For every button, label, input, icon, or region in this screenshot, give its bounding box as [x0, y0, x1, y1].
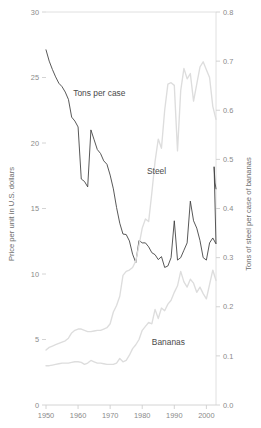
right-tick-label: 0.4	[223, 204, 233, 213]
right-tick-label: 0.0	[223, 401, 233, 410]
right-tick-label: 0.1	[223, 352, 233, 361]
series-label-steel: Steel	[147, 166, 166, 176]
right-tick-label: 0.8	[223, 8, 233, 17]
chart-background	[0, 0, 261, 428]
right-tick-label: 0.3	[223, 253, 233, 262]
left-tick-label: 30	[31, 8, 39, 17]
x-tick-label: 1970	[102, 411, 118, 420]
series-label-tons-per-case: Tons per case	[73, 88, 125, 98]
left-tick-label: 0	[35, 401, 39, 410]
chart-container: 051015202530 0.00.10.20.30.40.50.60.70.8…	[0, 0, 261, 428]
left-tick-label: 25	[31, 73, 39, 82]
left-axis-title: Price per unit in U.S. dollars	[7, 167, 16, 261]
x-tick-label: 1950	[38, 411, 54, 420]
right-tick-label: 0.5	[223, 155, 233, 164]
dual-axis-line-chart: 051015202530 0.00.10.20.30.40.50.60.70.8…	[0, 0, 261, 428]
left-tick-label: 20	[31, 139, 39, 148]
right-axis-title: Tons of steel per case of bananas	[244, 157, 253, 271]
right-tick-label: 0.2	[223, 302, 233, 311]
right-tick-label: 0.7	[223, 57, 233, 66]
left-tick-label: 10	[31, 270, 39, 279]
x-tick-label: 2000	[198, 411, 214, 420]
x-tick-label: 1960	[70, 411, 86, 420]
right-tick-label: 0.6	[223, 106, 233, 115]
x-tick-label: 1980	[134, 411, 150, 420]
series-label-bananas: Bananas	[152, 337, 185, 347]
left-tick-label: 15	[31, 204, 39, 213]
x-tick-label: 1990	[166, 411, 182, 420]
left-tick-label: 5	[35, 335, 39, 344]
